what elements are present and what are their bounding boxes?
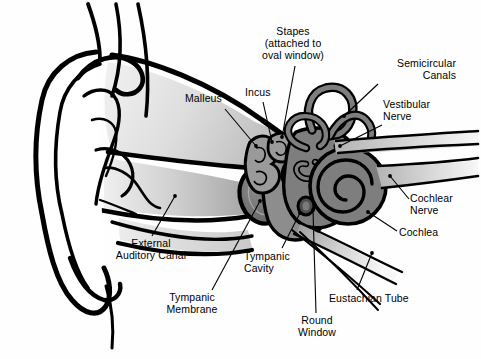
leader-dot-tympanic-cavity bbox=[298, 211, 302, 215]
leader-dot-incus bbox=[270, 140, 274, 144]
label-stapes: Stapes(attached tooval window) bbox=[249, 26, 337, 61]
label-cochlear-nerve-line-2: Nerve bbox=[410, 205, 474, 217]
leader-dot-vestibular-nerve bbox=[338, 144, 342, 148]
label-malleus-line-1: Malleus bbox=[185, 93, 233, 105]
leader-dot-stapes bbox=[280, 135, 284, 139]
ear-anatomy-diagram: Stapes(attached tooval window)Semicircul… bbox=[0, 0, 481, 359]
label-semicircular-canals: SemicircularCanals bbox=[374, 58, 456, 82]
label-cochlear-nerve: CochlearNerve bbox=[410, 193, 474, 217]
label-eustachian-tube-line-1: Eustachian Tube bbox=[329, 293, 423, 305]
label-round-window-line-2: Window bbox=[289, 327, 345, 339]
label-vestibular-nerve: VestibularNerve bbox=[383, 99, 453, 123]
leader-dot-semicircular-canals bbox=[342, 114, 346, 118]
label-tympanic-membrane-line-2: Membrane bbox=[157, 304, 227, 316]
label-stapes-line-2: (attached to bbox=[249, 38, 337, 50]
leader-dot-cochlea bbox=[366, 210, 370, 214]
label-external-auditory-canal-line-2: Auditory Canal bbox=[102, 250, 200, 262]
cochlea-structure bbox=[310, 148, 386, 224]
leader-dot-malleus bbox=[254, 144, 258, 148]
leader-dot-round-window bbox=[311, 208, 315, 212]
leader-dot-cochlear-nerve bbox=[388, 174, 392, 178]
label-semicircular-canals-line-2: Canals bbox=[374, 70, 456, 82]
label-tympanic-cavity: TympanicCavity bbox=[244, 251, 306, 275]
label-external-auditory-canal: ExternalAuditory Canal bbox=[102, 238, 200, 262]
label-cochlea: Cochlea bbox=[399, 227, 451, 239]
label-tympanic-cavity-line-2: Cavity bbox=[244, 263, 306, 275]
label-incus-line-1: Incus bbox=[245, 87, 281, 99]
leader-dot-tympanic-membrane bbox=[258, 199, 262, 203]
label-eustachian-tube: Eustachian Tube bbox=[329, 293, 423, 305]
leader-dot-eustachian-tube bbox=[370, 251, 374, 255]
leader-dot-external-auditory-canal bbox=[173, 194, 177, 198]
label-round-window: RoundWindow bbox=[289, 315, 345, 339]
ear-anatomy-illustration bbox=[0, 0, 481, 359]
label-stapes-line-3: oval window) bbox=[249, 50, 337, 62]
label-incus: Incus bbox=[245, 87, 281, 99]
label-malleus: Malleus bbox=[185, 93, 233, 105]
label-tympanic-membrane: TympanicMembrane bbox=[157, 292, 227, 316]
label-vestibular-nerve-line-2: Nerve bbox=[383, 111, 453, 123]
label-cochlea-line-1: Cochlea bbox=[399, 227, 451, 239]
